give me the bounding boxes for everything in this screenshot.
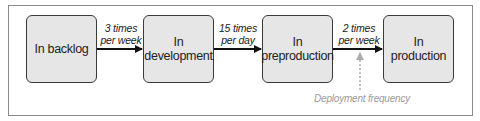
transition-label-2: 15 times per day — [216, 22, 260, 46]
transition-label-line: 15 times — [216, 22, 260, 34]
stage-in-backlog: In backlog — [26, 15, 97, 83]
stage-label: In production — [391, 35, 446, 63]
transition-label-1: 3 times per week — [100, 22, 142, 46]
stage-label: In preproduction — [261, 35, 334, 63]
transition-label-line: 2 times — [336, 22, 382, 34]
stage-label: In backlog — [35, 42, 89, 56]
stage-in-preproduction: In preproduction — [262, 15, 333, 83]
deployment-frequency-annotation: Deployment frequency — [314, 93, 410, 104]
transition-label-3: 2 times per week — [336, 22, 382, 46]
transition-label-line: 3 times — [100, 22, 142, 34]
stage-in-development: In development — [143, 15, 214, 83]
stage-label: In development — [144, 35, 212, 63]
transition-label-line: per week — [336, 34, 382, 46]
transition-label-line: per week — [100, 34, 142, 46]
stage-in-production: In production — [383, 15, 454, 83]
transition-label-line: per day — [216, 34, 260, 46]
